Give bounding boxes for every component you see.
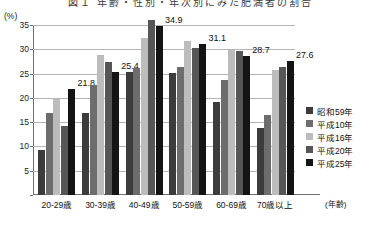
- bar: [192, 48, 199, 195]
- x-axis-tick-label: 20-29歳: [41, 198, 72, 210]
- bar: [236, 51, 243, 195]
- bar-data-label: 34.9: [165, 15, 183, 25]
- figure-title-text: 図１ 年齢・性別・年次別にみた肥満者の割合: [68, 0, 313, 7]
- y-axis-tick-mark: [30, 171, 33, 172]
- y-axis-tick-mark: [30, 146, 33, 147]
- bar: [257, 128, 264, 196]
- bar: [68, 89, 75, 195]
- bar: [112, 72, 119, 195]
- y-axis-tick-mark: [30, 122, 33, 123]
- legend-item[interactable]: 平成25年: [306, 156, 353, 169]
- y-axis-tick-label: 25: [20, 69, 29, 79]
- legend-item[interactable]: 平成20年: [306, 143, 353, 156]
- y-axis-tick-mark: [30, 74, 33, 75]
- x-axis-tick-label: 50-59歳: [172, 198, 203, 210]
- bar: [141, 38, 148, 195]
- bar-group: [257, 25, 294, 195]
- bar: [243, 56, 250, 195]
- bar: [82, 113, 89, 195]
- legend-item-label: 平成25年: [317, 157, 353, 169]
- y-axis-tick-label: 35: [20, 20, 29, 30]
- bar: [264, 115, 271, 195]
- bar: [133, 68, 140, 195]
- bar: [221, 80, 228, 195]
- bar: [38, 150, 45, 195]
- x-axis-tick-label: 70歳以上: [257, 198, 293, 210]
- plot-area: 5101520253035 21.825.434.931.128.727.6 2…: [33, 25, 295, 195]
- bar: [61, 126, 68, 195]
- legend-item[interactable]: 平成10年: [306, 117, 353, 130]
- y-axis-tick-mark: [30, 49, 33, 50]
- legend-swatch-icon: [306, 159, 313, 166]
- legend-item-label: 平成20年: [317, 144, 353, 156]
- bar: [184, 41, 191, 195]
- bar: [90, 85, 97, 195]
- y-axis-tick-label: 30: [20, 44, 29, 54]
- bar-group: [169, 25, 206, 195]
- bar: [272, 70, 279, 195]
- legend-swatch-icon: [306, 133, 313, 140]
- y-axis-tick-label: 10: [20, 141, 29, 151]
- y-axis-tick-mark: [30, 98, 33, 99]
- bar: [169, 73, 176, 195]
- chart-legend: 昭和59年平成10年平成16年平成20年平成25年: [306, 104, 353, 169]
- bar: [148, 20, 155, 195]
- bar: [177, 67, 184, 195]
- y-axis-tick-mark: [30, 25, 33, 26]
- x-axis-tick-label: 40-49歳: [129, 198, 160, 210]
- bar: [97, 55, 104, 195]
- bar-group: [213, 25, 250, 195]
- figure-title-clipped: 図１ 年齢・性別・年次別にみた肥満者の割合: [0, 0, 381, 7]
- y-axis-tick-label: 15: [20, 117, 29, 127]
- legend-swatch-icon: [306, 146, 313, 153]
- x-axis-tick-label: 60-69歳: [216, 198, 247, 210]
- bar-group: [82, 25, 119, 195]
- bar: [53, 99, 60, 195]
- bar: [279, 67, 286, 195]
- bar: [105, 62, 112, 195]
- x-axis-tick-label: 30-39歳: [85, 198, 116, 210]
- x-axis-name: (年齢): [325, 198, 346, 209]
- bar: [156, 26, 163, 196]
- bar: [213, 102, 220, 195]
- legend-swatch-icon: [306, 107, 313, 114]
- bar-group: [126, 25, 163, 195]
- y-axis-unit-label: (%): [4, 11, 17, 21]
- legend-item-label: 昭和59年: [317, 105, 353, 117]
- bar: [126, 72, 133, 195]
- legend-item-label: 平成16年: [317, 131, 353, 143]
- y-axis-line: [33, 25, 34, 195]
- bar: [46, 113, 53, 195]
- y-axis-tick-label: 5: [24, 166, 29, 176]
- y-axis-tick-label: 20: [20, 93, 29, 103]
- legend-swatch-icon: [306, 120, 313, 127]
- legend-item[interactable]: 昭和59年: [306, 104, 353, 117]
- y-axis-tick-mark: [30, 195, 33, 196]
- legend-item-label: 平成10年: [317, 118, 353, 130]
- legend-item[interactable]: 平成16年: [306, 130, 353, 143]
- chart-figure: 図１ 年齢・性別・年次別にみた肥満者の割合 (%) 5101520253035 …: [0, 0, 381, 235]
- bar: [287, 61, 294, 195]
- bar-data-label: 27.6: [296, 50, 314, 60]
- bar-group: [38, 25, 75, 195]
- bar: [228, 50, 235, 195]
- bar: [199, 44, 206, 195]
